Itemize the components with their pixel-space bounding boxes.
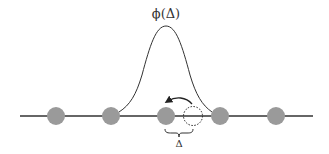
atom-2 xyxy=(102,107,120,125)
displacement-brace xyxy=(165,129,193,137)
potential-label: ϕ(Δ) xyxy=(152,6,180,21)
atom-5 xyxy=(267,107,285,125)
restoring-arrow-icon xyxy=(168,98,192,104)
lattice-diagram: ϕ(Δ) Δ xyxy=(0,0,329,154)
atom-4 xyxy=(211,107,229,125)
gaussian-curve xyxy=(119,26,212,112)
atom-3 xyxy=(157,107,175,125)
atom-1 xyxy=(47,107,65,125)
displacement-label: Δ xyxy=(175,138,182,149)
